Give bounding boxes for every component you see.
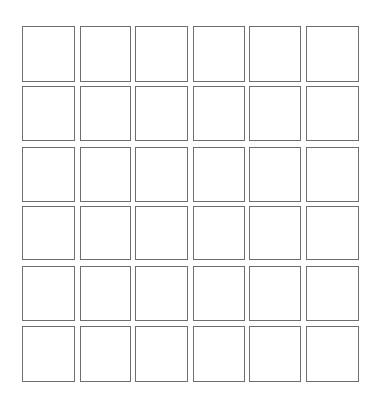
square-grid — [0, 0, 374, 397]
grid-cell — [249, 147, 301, 202]
grid-cell — [249, 266, 301, 321]
grid-cell — [193, 326, 245, 382]
grid-cell — [22, 26, 75, 82]
grid-cell — [306, 86, 359, 141]
grid-cell — [22, 206, 75, 260]
grid-cell — [80, 147, 131, 202]
grid-cell — [306, 26, 359, 82]
grid-cell — [80, 326, 131, 382]
grid-cell — [22, 86, 75, 141]
grid-cell — [249, 86, 301, 141]
grid-cell — [249, 206, 301, 260]
grid-cell — [80, 266, 131, 321]
grid-cell — [193, 147, 245, 202]
grid-cell — [193, 266, 245, 321]
grid-cell — [135, 206, 188, 260]
grid-cell — [135, 266, 188, 321]
grid-cell — [249, 326, 301, 382]
grid-cell — [22, 266, 75, 321]
grid-cell — [135, 147, 188, 202]
grid-cell — [306, 266, 359, 321]
grid-cell — [135, 326, 188, 382]
grid-cell — [80, 206, 131, 260]
grid-cell — [135, 86, 188, 141]
grid-cell — [306, 147, 359, 202]
grid-cell — [135, 26, 188, 82]
grid-cell — [22, 147, 75, 202]
grid-cell — [80, 26, 131, 82]
grid-cell — [306, 326, 359, 382]
grid-cell — [193, 26, 245, 82]
grid-cell — [193, 86, 245, 141]
grid-cell — [249, 26, 301, 82]
grid-cell — [193, 206, 245, 260]
grid-cell — [306, 206, 359, 260]
grid-cell — [22, 326, 75, 382]
grid-cell — [80, 86, 131, 141]
